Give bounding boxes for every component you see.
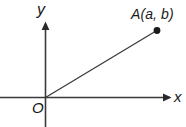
y-axis-label: y — [37, 2, 45, 18]
point-a-label: A(a, b) — [131, 7, 174, 21]
origin-label: O — [32, 100, 44, 115]
x-axis-label: x — [174, 89, 182, 104]
point-a-marker — [154, 27, 161, 34]
ray-origin-to-point-a — [46, 31, 157, 98]
x-axis-arrowhead-icon — [163, 94, 172, 102]
y-axis-arrowhead-icon — [42, 22, 50, 31]
coordinate-plane-figure: y x O A(a, b) — [0, 0, 186, 127]
